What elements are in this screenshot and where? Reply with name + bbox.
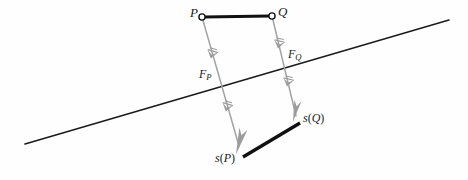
endpoint-p — [199, 14, 205, 20]
label-force-q: FQ — [288, 48, 302, 62]
label-point-p: P — [190, 6, 198, 19]
segment-pq — [204, 16, 270, 17]
geometry-figure: P Q FP FQ s(P) s(Q) — [0, 0, 468, 180]
plane-line — [25, 20, 449, 144]
label-point-q: Q — [278, 5, 287, 18]
label-force-p: FP — [199, 68, 212, 82]
segment-image-pq — [243, 123, 300, 157]
label-image-q: s(Q) — [303, 112, 324, 124]
endpoint-q — [269, 13, 275, 19]
vector-q-arrow-tip — [289, 100, 301, 123]
label-image-p: s(P) — [215, 152, 235, 164]
